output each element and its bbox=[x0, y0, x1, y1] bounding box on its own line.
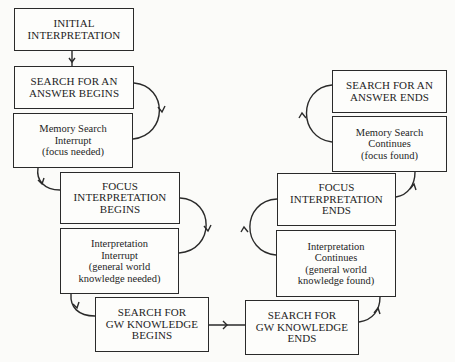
node-text: (focus found) bbox=[361, 150, 418, 162]
node-text: Interrupt bbox=[55, 135, 92, 147]
flow-diagram: INITIAL INTERPRETATION SEARCH FOR AN ANS… bbox=[0, 0, 455, 362]
arrow-focus-ends-to-memory-continues bbox=[396, 172, 415, 197]
node-text: ENDS bbox=[287, 333, 316, 345]
node-text: ENDS bbox=[322, 205, 351, 217]
arrowhead-left-loop-2 bbox=[299, 113, 306, 118]
arrow-search-begins-to-memory-interrupt bbox=[133, 83, 159, 139]
node-search-answer-ends: SEARCH FOR AN ANSWER ENDS bbox=[332, 70, 447, 113]
arrow-interpretation-continues-to-focus-ends bbox=[250, 199, 277, 255]
node-text: BEGINS bbox=[132, 330, 172, 342]
node-text: Interpretation bbox=[91, 238, 148, 250]
node-search-answer-begins: SEARCH FOR AN ANSWER BEGINS bbox=[14, 66, 134, 109]
node-text: SEARCH FOR AN bbox=[346, 80, 433, 92]
node-text: Memory Search bbox=[39, 123, 106, 135]
arrow-memory-interrupt-to-focus-begins bbox=[38, 168, 60, 190]
node-text: ANSWER ENDS bbox=[350, 92, 429, 104]
arrowhead-hook-4 bbox=[410, 184, 416, 190]
arrow-focus-begins-to-interpretation-interrupt bbox=[179, 198, 206, 253]
node-text: (general world bbox=[89, 261, 151, 273]
node-text: Continues bbox=[315, 252, 358, 264]
node-focus-interpretation-ends: FOCUS INTERPRETATION ENDS bbox=[277, 173, 396, 226]
node-search-gw-knowledge-begins: SEARCH FOR GW KNOWLEDGE BEGINS bbox=[95, 297, 209, 352]
node-search-gw-knowledge-ends: SEARCH FOR GW KNOWLEDGE ENDS bbox=[245, 300, 359, 355]
node-text: knowledge needed) bbox=[79, 273, 161, 285]
node-memory-search-interrupt: Memory Search Interrupt (focus needed) bbox=[13, 113, 133, 168]
node-text: INITIAL bbox=[53, 18, 94, 30]
node-text: (general world bbox=[305, 264, 367, 276]
arrowhead-left-loop-1 bbox=[241, 227, 248, 232]
node-text: Continues bbox=[368, 138, 411, 150]
arrow-memory-continues-to-search-ends bbox=[307, 85, 333, 142]
node-text: knowledge found) bbox=[298, 275, 375, 287]
node-focus-interpretation-begins: FOCUS INTERPRETATION BEGINS bbox=[60, 172, 180, 224]
node-text: Interrupt bbox=[101, 250, 138, 262]
node-interpretation-interrupt: Interpretation Interrupt (general world … bbox=[60, 228, 179, 294]
node-text: ANSWER BEGINS bbox=[29, 88, 119, 100]
node-text: BEGINS bbox=[100, 204, 140, 216]
node-text: Interpretation bbox=[307, 241, 364, 253]
node-text: SEARCH FOR AN bbox=[31, 76, 118, 88]
node-memory-search-continues: Memory Search Continues (focus found) bbox=[332, 116, 447, 172]
node-text: (focus needed) bbox=[42, 146, 104, 158]
node-text: Memory Search bbox=[356, 127, 423, 139]
node-text: INTERPRETATION bbox=[28, 30, 121, 42]
node-initial-interpretation: INITIAL INTERPRETATION bbox=[14, 8, 134, 51]
node-interpretation-continues: Interpretation Continues (general world … bbox=[276, 230, 396, 297]
